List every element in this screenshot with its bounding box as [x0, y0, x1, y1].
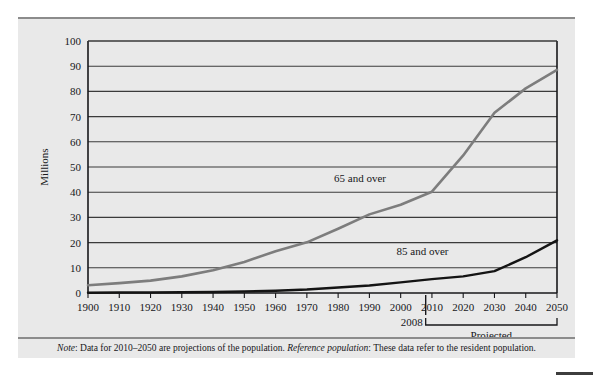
y-tick-70: 70	[70, 111, 82, 123]
note-lead-2: Reference population	[287, 343, 368, 353]
y-axis-ticks: 0102030405060708090100	[65, 35, 82, 299]
note-text-2: : These data refer to the resident popul…	[368, 343, 536, 353]
x-tick-1900: 1900	[77, 301, 100, 313]
x-tick-1920: 1920	[140, 301, 163, 313]
y-tick-0: 0	[76, 287, 82, 299]
y-tick-90: 90	[70, 60, 82, 72]
y-tick-60: 60	[70, 136, 82, 148]
x-tick-1950: 1950	[233, 301, 256, 313]
note-lead: Note	[57, 343, 75, 353]
x-tick-1940: 1940	[202, 301, 225, 313]
x-tick-1960: 1960	[265, 301, 288, 313]
x-tick-1910: 1910	[108, 301, 130, 313]
population-line-chart: 0102030405060708090100 19001910192019301…	[18, 17, 575, 337]
x-tick-1980: 1980	[327, 301, 350, 313]
series-line-65-and-over	[88, 70, 557, 285]
series-lines	[88, 70, 557, 293]
grid-lines	[88, 41, 557, 268]
y-tick-40: 40	[70, 186, 82, 198]
figure-note: Note: Data for 2010–2050 are projections…	[18, 343, 575, 353]
x-axis-ticks: 1900191019201930194019501960197019801990…	[77, 293, 569, 313]
projection-divider-label: 2008	[401, 316, 424, 328]
projected-bracket-label: Projected	[471, 329, 513, 337]
y-tick-100: 100	[65, 35, 82, 47]
figure-bottom-rule	[18, 337, 575, 339]
series-label-65-and-over: 65 and over	[334, 172, 386, 184]
x-tick-2000: 2000	[390, 301, 413, 313]
y-axis-title: Millions	[38, 148, 50, 185]
x-tick-1990: 1990	[358, 301, 381, 313]
y-tick-50: 50	[70, 161, 82, 173]
y-tick-30: 30	[70, 211, 82, 223]
x-tick-2030: 2030	[483, 301, 506, 313]
series-label-85-and-over: 85 and over	[397, 245, 449, 257]
corner-mark	[556, 372, 593, 375]
series-labels: 65 and over85 and over	[334, 172, 449, 257]
x-tick-2040: 2040	[515, 301, 538, 313]
note-text-1: : Data for 2010–2050 are projections of …	[75, 343, 287, 353]
x-tick-2010: 2010	[421, 301, 444, 313]
figure-card: 0102030405060708090100 19001910192019301…	[18, 17, 575, 358]
y-tick-80: 80	[70, 85, 82, 97]
x-tick-2050: 2050	[546, 301, 569, 313]
x-tick-1930: 1930	[171, 301, 194, 313]
y-tick-20: 20	[70, 237, 82, 249]
series-line-85-and-over	[88, 240, 557, 292]
x-tick-1970: 1970	[296, 301, 319, 313]
x-tick-2020: 2020	[452, 301, 475, 313]
y-tick-10: 10	[70, 262, 82, 274]
